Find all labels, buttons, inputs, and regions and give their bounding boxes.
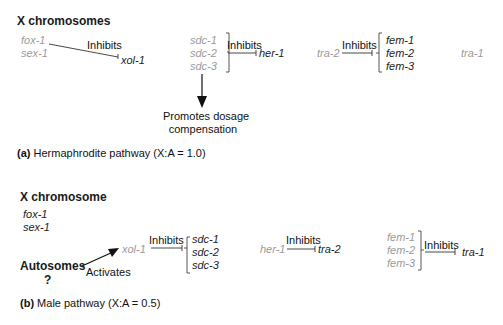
caption-b-label: (b) bbox=[20, 297, 34, 309]
caption-b: (b) Male pathway (X:A = 0.5) bbox=[20, 297, 160, 309]
gene-sdc-3: sdc-3 bbox=[192, 259, 219, 272]
gene-xol-1: xol-1 bbox=[122, 243, 146, 256]
gene-fem-1: fem-1 bbox=[387, 231, 415, 244]
gene-fox-1: fox-1 bbox=[21, 34, 45, 47]
inhibits-label: Inhibits bbox=[149, 234, 184, 246]
gene-sex-1: sex-1 bbox=[23, 221, 50, 234]
inhibits-label: Inhibits bbox=[87, 39, 122, 51]
gene-fem-2: fem-2 bbox=[386, 47, 414, 60]
gene-sdc-2: sdc-2 bbox=[192, 246, 219, 259]
autosomes-question: ? bbox=[44, 273, 51, 287]
caption-a-label: (a) bbox=[17, 147, 30, 159]
inhibits-label: Inhibits bbox=[424, 239, 459, 251]
activates-label: Activates bbox=[86, 266, 131, 278]
gene-her-1: her-1 bbox=[260, 243, 285, 256]
gene-her-1: her-1 bbox=[259, 47, 284, 60]
inhibits-label: Inhibits bbox=[342, 39, 377, 51]
caption-b-text: Male pathway (X:A = 0.5) bbox=[34, 297, 160, 309]
gene-tra-2: tra-2 bbox=[318, 243, 341, 256]
gene-sex-1: sex-1 bbox=[21, 47, 48, 60]
caption-a-text: Hermaphrodite pathway (X:A = 1.0) bbox=[30, 147, 205, 159]
gene-fem-1: fem-1 bbox=[386, 34, 414, 47]
gene-fem-3: fem-3 bbox=[386, 60, 414, 73]
gene-tra-1: tra-1 bbox=[461, 47, 484, 60]
gene-tra-2: tra-2 bbox=[317, 47, 340, 60]
gene-xol-1: xol-1 bbox=[121, 54, 145, 67]
panel-b-header: X chromosome bbox=[20, 190, 107, 204]
gene-sdc-1: sdc-1 bbox=[192, 233, 219, 246]
panel-a-header: X chromosomes bbox=[17, 14, 110, 28]
inhibits-label: Inhibits bbox=[286, 234, 321, 246]
gene-sdc-3: sdc-3 bbox=[190, 60, 217, 73]
promotes-label-line1: Promotes dosage bbox=[163, 110, 243, 122]
caption-a: (a) Hermaphrodite pathway (X:A = 1.0) bbox=[17, 147, 206, 159]
inhibits-label: Inhibits bbox=[227, 39, 262, 51]
promotes-label-line2: compensation bbox=[163, 123, 243, 135]
gene-sdc-1: sdc-1 bbox=[190, 34, 217, 47]
gene-fem-3: fem-3 bbox=[387, 257, 415, 270]
gene-sdc-2: sdc-2 bbox=[190, 47, 217, 60]
gene-fox-1: fox-1 bbox=[23, 208, 47, 221]
autosomes-label: Autosomes bbox=[20, 259, 85, 273]
gene-fem-2: fem-2 bbox=[387, 244, 415, 257]
gene-tra-1: tra-1 bbox=[462, 246, 485, 259]
